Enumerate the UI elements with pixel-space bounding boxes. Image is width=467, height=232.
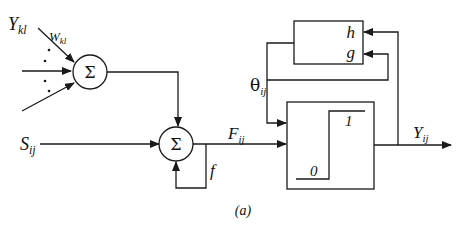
threshold-feedback-to-g — [267, 54, 388, 80]
step-low-label: 0 — [310, 163, 318, 179]
weight-label-wkl: Wkl — [49, 29, 67, 46]
sigma-symbol-2: Σ — [170, 135, 181, 154]
stimulus-label-sij: Sij — [20, 134, 36, 157]
input-g-label: g — [347, 43, 356, 62]
output-label-yij: Yij — [413, 123, 429, 144]
input-label-ykl: Ykl — [8, 14, 27, 37]
neuron-block-diagram: Ykl Wkl Σ Sij Σ Fij f h g θij 0 1 Yij ( — [0, 0, 467, 232]
step-function-block — [287, 102, 374, 189]
feedback-label-f: f — [210, 161, 217, 180]
threshold-signal-arrow — [267, 43, 294, 123]
link-sum1-to-sum2 — [107, 72, 178, 126]
figure-caption: (a) — [235, 203, 252, 219]
step-function-curve — [296, 111, 365, 179]
feeding-label-fij: Fij — [227, 124, 245, 145]
input-h-label: h — [347, 23, 356, 42]
input-arrow-lower — [22, 83, 74, 111]
sigma-symbol-1: Σ — [84, 63, 95, 82]
output-feedback-to-h — [364, 32, 398, 145]
step-high-label: 1 — [345, 113, 353, 129]
threshold-label-theta: θij — [250, 75, 266, 97]
